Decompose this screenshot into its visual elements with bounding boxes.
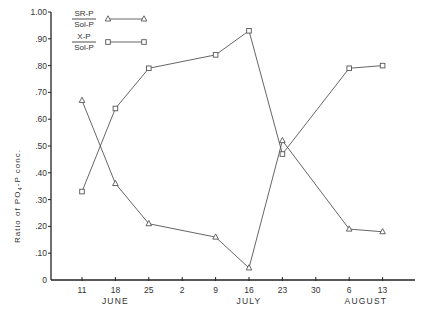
square-marker xyxy=(213,53,218,58)
square-marker xyxy=(280,152,285,157)
line-chart: 0.10.20.30.40.50.60.70.80.901.00 1118252… xyxy=(0,0,424,311)
triangle-marker xyxy=(113,180,119,185)
x-tick-label: 25 xyxy=(144,285,154,295)
month-label: AUGUST xyxy=(345,296,388,306)
series-srp-ratio xyxy=(79,97,385,270)
legend-denominator: Sol-P xyxy=(74,20,94,29)
square-marker xyxy=(142,40,147,45)
y-tick-label: .20 xyxy=(35,221,47,231)
legend-numerator: SR-P xyxy=(74,9,93,18)
y-tick-label: .10 xyxy=(35,248,47,258)
y-axis: 0.10.20.30.40.50.60.70.80.901.00 xyxy=(30,7,51,285)
x-tick-label: 9 xyxy=(213,285,218,295)
y-tick-label: .50 xyxy=(35,141,47,151)
x-tick-label: 11 xyxy=(78,285,87,295)
x-tick-label: 13 xyxy=(378,285,388,295)
square-marker xyxy=(380,63,385,68)
month-label: JUNE xyxy=(102,296,129,306)
series-xp-ratio xyxy=(80,28,385,193)
x-axis: 11182529162330613JUNEJULYAUGUST xyxy=(51,277,415,306)
x-tick-label: 18 xyxy=(111,285,121,295)
square-marker xyxy=(106,40,111,45)
triangle-marker xyxy=(280,137,286,142)
y-tick-label: 1.00 xyxy=(30,7,47,17)
series-line xyxy=(82,100,383,268)
x-tick-label: 6 xyxy=(347,285,352,295)
square-marker xyxy=(113,106,118,111)
square-marker xyxy=(147,66,152,71)
series-layer xyxy=(79,28,385,269)
triangle-marker xyxy=(79,97,85,102)
y-axis-title: Ratio of PO4-P conc. xyxy=(13,149,23,243)
square-marker xyxy=(80,189,85,194)
x-tick-label: 30 xyxy=(311,285,321,295)
y-tick-label: .90 xyxy=(35,34,47,44)
x-tick-label: 16 xyxy=(244,285,254,295)
y-tick-label: .40 xyxy=(35,168,47,178)
triangle-marker xyxy=(105,16,111,21)
x-tick-label: 23 xyxy=(278,285,288,295)
y-tick-label: 0 xyxy=(42,275,47,285)
series-line xyxy=(82,31,383,192)
square-marker xyxy=(247,28,252,33)
legend-numerator: X-P xyxy=(77,32,90,41)
triangle-marker xyxy=(141,16,147,21)
y-tick-label: .70 xyxy=(35,87,47,97)
legend-denominator: Sol-P xyxy=(74,43,94,52)
y-tick-label: .30 xyxy=(35,195,47,205)
month-label: JULY xyxy=(237,296,262,306)
square-marker xyxy=(347,66,352,71)
y-tick-label: .60 xyxy=(35,114,47,124)
legend: SR-PSol-PX-PSol-P xyxy=(72,9,147,52)
x-tick-label: 2 xyxy=(180,285,185,295)
y-tick-label: .80 xyxy=(35,61,47,71)
